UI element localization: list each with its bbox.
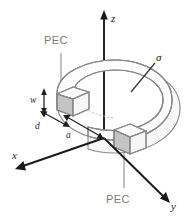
pec-bottom-label: PEC [106, 194, 130, 205]
x-axis [15, 138, 104, 171]
dimension-w-label: w [30, 96, 36, 106]
x-axis-label: x [12, 150, 17, 161]
dimension-a-line [67, 117, 100, 136]
pec-top-label: PEC [44, 35, 68, 46]
dimension-d-line [44, 113, 66, 125]
dimension-d-label: d [35, 122, 40, 132]
z-axis-label: z [111, 13, 115, 24]
sigma-label: σ [156, 52, 161, 63]
x-axis-arrowhead [15, 161, 26, 171]
diagram-svg [0, 0, 187, 220]
pec-cap-top [57, 87, 89, 116]
pec-cap-bottom [114, 124, 146, 154]
dimension-w [41, 88, 47, 115]
z-axis [100, 10, 108, 138]
x-axis-line [23, 138, 104, 166]
z-axis-arrowhead [100, 10, 108, 20]
y-axis-label: y [171, 201, 176, 212]
dimension-a-label: a [66, 131, 71, 141]
figure-canvas: PEC PEC σ z x y w d a [0, 0, 187, 220]
dimension-w-arrowhead-up [41, 88, 47, 95]
